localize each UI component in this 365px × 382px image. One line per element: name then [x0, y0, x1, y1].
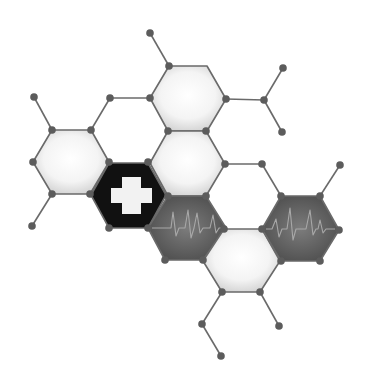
atom-node	[258, 160, 266, 168]
bond-line	[260, 292, 279, 326]
atom-node	[260, 96, 268, 104]
atom-node	[202, 192, 210, 200]
atom-node	[48, 126, 56, 134]
atom-node	[106, 94, 114, 102]
atom-node	[336, 161, 344, 169]
atom-node	[335, 226, 343, 234]
atom-node	[217, 352, 225, 360]
atom-node	[277, 192, 285, 200]
bond-line	[150, 33, 169, 66]
bond-line	[262, 164, 281, 196]
bond-line	[91, 98, 110, 130]
hexagon-top	[150, 66, 226, 131]
atom-node	[278, 128, 286, 136]
atom-node	[29, 158, 37, 166]
atom-node	[164, 192, 172, 200]
atom-node	[87, 126, 95, 134]
atom-node	[28, 222, 36, 230]
atom-node	[146, 94, 154, 102]
atom-node	[199, 256, 207, 264]
medical-hexagon-illustration	[0, 0, 365, 382]
atom-node	[258, 225, 266, 233]
bond-line	[32, 194, 52, 226]
atom-node	[275, 322, 283, 330]
atom-node	[165, 62, 173, 70]
atom-node	[86, 190, 94, 198]
atom-node	[218, 288, 226, 296]
bond-line	[34, 97, 52, 130]
bond-line	[226, 99, 264, 100]
atom-node	[161, 256, 169, 264]
atom-node	[220, 225, 228, 233]
atom-node	[256, 288, 264, 296]
atom-node	[105, 158, 113, 166]
atom-node	[277, 257, 285, 265]
bond-line	[264, 68, 283, 100]
atom-node	[144, 158, 152, 166]
bond-line	[264, 100, 282, 132]
bond-line	[202, 292, 222, 324]
hexagon-cells	[33, 66, 339, 292]
atom-node	[222, 95, 230, 103]
bond-line	[320, 165, 340, 196]
atom-node	[221, 160, 229, 168]
atom-node	[105, 224, 113, 232]
atom-node	[48, 190, 56, 198]
atom-node	[146, 29, 154, 37]
atom-node	[164, 127, 172, 135]
atom-node	[316, 257, 324, 265]
atom-node	[198, 320, 206, 328]
hexagon-network-graphic	[0, 0, 365, 382]
atom-node	[30, 93, 38, 101]
atom-node	[316, 192, 324, 200]
atom-node	[144, 224, 152, 232]
atom-node	[279, 64, 287, 72]
bond-line	[202, 324, 221, 356]
atom-node	[202, 127, 210, 135]
